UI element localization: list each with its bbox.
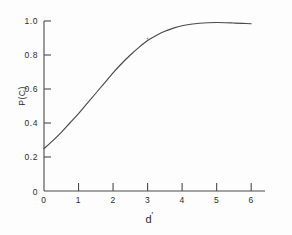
x-tick-label: 5 — [214, 195, 219, 205]
y-tick-label: 0.8 — [24, 50, 38, 60]
plot-artifact-mark — [147, 38, 149, 40]
x-axis-label-prime: ′ — [152, 210, 154, 220]
x-tick-label: 1 — [76, 195, 81, 205]
x-tick-label: 4 — [179, 195, 184, 205]
x-axis-ticks — [79, 183, 252, 191]
x-axis-label: d′ — [145, 210, 153, 225]
data-series-line — [44, 23, 251, 149]
x-tick-label: 3 — [145, 195, 150, 205]
x-tick-label: 0 — [41, 195, 46, 205]
y-tick-label: 0.6 — [24, 84, 38, 94]
annotation-marks-group — [147, 38, 149, 40]
figure-container: P(C) d′ 00.20.40.60.81.0 0123456 — [0, 0, 292, 235]
y-tick-label: 1.0 — [24, 16, 38, 26]
x-tick-label: 2 — [110, 195, 115, 205]
y-axis-ticks — [44, 21, 51, 157]
y-tick-label: 0.2 — [24, 152, 38, 162]
y-tick-label: 0 — [33, 187, 38, 197]
x-tick-label: 6 — [249, 195, 254, 205]
axes-group — [44, 21, 265, 191]
y-tick-label: 0.4 — [24, 118, 38, 128]
